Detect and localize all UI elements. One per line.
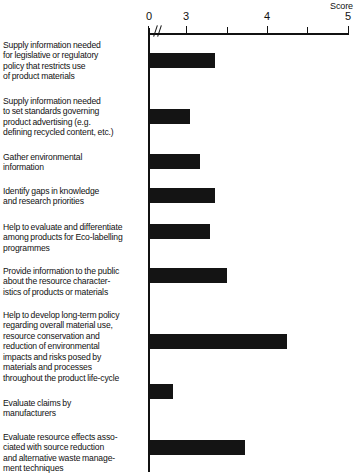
chart-row: Evaluate claims by manufacturers xyxy=(0,398,362,432)
chart-row: Gather environmental information xyxy=(0,152,362,186)
label-line: resource conservation and xyxy=(3,331,143,341)
label-line: istics of products or materials xyxy=(3,287,143,297)
category-label: Supply information needed for legislativ… xyxy=(3,40,143,82)
label-line: Evaluate resource effects asso- xyxy=(3,432,143,442)
label-line: programmes xyxy=(3,243,143,253)
chart-row: Help to develop long-term policy regardi… xyxy=(0,310,362,392)
chart-row: Provide information to the public about … xyxy=(0,266,362,310)
label-line: for legislative or regulatory xyxy=(3,50,143,60)
label-line: to set standards governing xyxy=(3,106,143,116)
label-line: and alternative waste manage- xyxy=(3,453,143,463)
label-line: regarding overall material use, xyxy=(3,320,143,330)
label-line: product advertising (e.g. xyxy=(3,117,143,127)
category-label: Evaluate claims by manufacturers xyxy=(3,398,143,419)
label-line: of product materials xyxy=(3,71,143,81)
label-line: ciated with source reduction xyxy=(3,442,143,452)
label-line: and research priorities xyxy=(3,196,143,206)
x-tick-label-0: 0 xyxy=(146,11,152,22)
label-line: Gather environmental xyxy=(3,152,143,162)
category-label: Supply information needed to set standar… xyxy=(3,96,143,138)
bar-chart: Score 0 3 4 5 Supply information needed … xyxy=(0,0,362,476)
category-label: Identify gaps in knowledge and research … xyxy=(3,186,143,207)
x-tick-label-4: 4 xyxy=(264,11,270,22)
x-tick-0 xyxy=(148,26,149,35)
bar xyxy=(150,53,215,68)
bar xyxy=(150,109,190,124)
label-line: Provide information to the public xyxy=(3,266,143,276)
x-tick-4-5 xyxy=(307,27,308,33)
label-line: Supply information needed xyxy=(3,96,143,106)
chart-row: Supply information needed to set standar… xyxy=(0,96,362,152)
bar xyxy=(150,268,227,283)
x-tick-label-5: 5 xyxy=(345,11,351,22)
x-tick-4 xyxy=(267,26,268,35)
label-line: throughout the product life-cycle xyxy=(3,373,143,383)
bar xyxy=(150,154,200,169)
category-label: Provide information to the public about … xyxy=(3,266,143,297)
label-line: Identify gaps in knowledge xyxy=(3,186,143,196)
label-line: about the resource character- xyxy=(3,276,143,286)
label-line: among products for Eco-labelling xyxy=(3,232,143,242)
label-line: materials and processes xyxy=(3,362,143,372)
category-label: Help to evaluate and differentiate among… xyxy=(3,222,143,253)
category-label: Help to develop long-term policy regardi… xyxy=(3,310,143,383)
x-tick-label-3: 3 xyxy=(183,11,189,22)
label-line: Help to evaluate and differentiate xyxy=(3,222,143,232)
bar xyxy=(150,224,210,239)
bar xyxy=(150,334,287,349)
label-line: defining recycled content, etc.) xyxy=(3,127,143,137)
label-line: Evaluate claims by xyxy=(3,398,143,408)
label-line: reduction of environmental xyxy=(3,341,143,351)
category-label: Evaluate resource effects asso- ciated w… xyxy=(3,432,143,474)
bar xyxy=(150,384,173,399)
axis-break-icon xyxy=(153,25,165,37)
label-line: manufacturers xyxy=(3,408,143,418)
label-line: information xyxy=(3,162,143,172)
chart-row: Help to evaluate and differentiate among… xyxy=(0,222,362,266)
x-tick-3-5 xyxy=(227,27,228,33)
bar xyxy=(150,188,215,203)
x-tick-3 xyxy=(186,26,187,35)
x-axis-line xyxy=(148,33,348,35)
label-line: impacts and risks posed by xyxy=(3,352,143,362)
label-line: ment techniques xyxy=(3,463,143,473)
label-line: Help to develop long-term policy xyxy=(3,310,143,320)
chart-row: Evaluate resource effects asso- ciated w… xyxy=(0,432,362,476)
x-tick-5 xyxy=(348,26,349,35)
bar xyxy=(150,440,245,455)
chart-row: Identify gaps in knowledge and research … xyxy=(0,186,362,222)
chart-row: Supply information needed for legislativ… xyxy=(0,40,362,96)
label-line: Supply information needed xyxy=(3,40,143,50)
label-line: policy that restricts use xyxy=(3,61,143,71)
category-label: Gather environmental information xyxy=(3,152,143,173)
